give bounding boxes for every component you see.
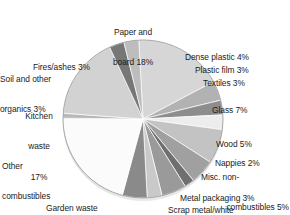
label-line: 17% bbox=[8, 172, 70, 182]
label-line: Scrap metal/white bbox=[168, 205, 272, 215]
label-line: organics 3% bbox=[0, 104, 86, 114]
slice-label-fires-ashes: Fires/ashes 3% bbox=[16, 41, 90, 92]
label-line: Glass 7% bbox=[212, 105, 288, 115]
label-line: board 18% bbox=[85, 57, 181, 67]
label-line: Fires/ashes 3% bbox=[16, 62, 90, 72]
slice-label-scrap-metal-white-goods: Scrap metal/white goods 5% bbox=[168, 184, 272, 215]
label-line: waste bbox=[8, 141, 70, 151]
slice-label-paper-and-board: Paper and board 18% bbox=[85, 6, 181, 88]
pie-chart-figure: Paper and board 18% Dense plastic 4% Pla… bbox=[0, 0, 290, 215]
label-line: Paper and bbox=[85, 27, 181, 37]
